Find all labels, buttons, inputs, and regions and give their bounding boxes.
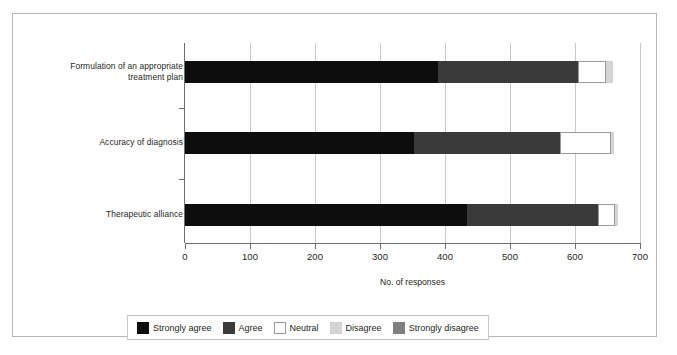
legend-label: Strongly agree xyxy=(153,323,212,333)
legend-label: Agree xyxy=(239,323,263,333)
legend-swatch xyxy=(393,322,405,334)
x-axis-tick-label: 600 xyxy=(555,251,595,262)
legend-swatch xyxy=(330,322,342,334)
legend-item[interactable]: Agree xyxy=(223,322,263,334)
x-axis-line: 0100200300400500600700 xyxy=(185,243,640,244)
x-axis-tick-label: 700 xyxy=(620,251,660,262)
x-axis-tick-label: 200 xyxy=(295,251,335,262)
category-label-line: Formulation of an appropriate xyxy=(33,61,183,73)
bar-segment[interactable] xyxy=(611,132,614,154)
legend-swatch xyxy=(137,322,149,334)
legend-item[interactable]: Disagree xyxy=(330,322,382,334)
plot-area xyxy=(185,43,640,243)
chart-figure-frame: Formulation of an appropriatetreatment p… xyxy=(12,13,657,337)
chart-legend: Strongly agreeAgreeNeutralDisagreeStrong… xyxy=(127,315,489,340)
x-axis-tick xyxy=(640,243,641,249)
x-axis-tick-label: 300 xyxy=(360,251,400,262)
category-label-line: Accuracy of diagnosis xyxy=(33,137,183,149)
bar-segment[interactable] xyxy=(414,132,560,154)
bar-segment[interactable] xyxy=(606,61,613,83)
legend-label: Strongly disagree xyxy=(409,323,479,333)
x-axis-tick xyxy=(380,243,381,249)
x-axis-title: No. of responses xyxy=(185,277,640,287)
bar-segment[interactable] xyxy=(185,61,438,83)
category-label-line: treatment plan xyxy=(33,72,183,84)
legend-item[interactable]: Strongly agree xyxy=(137,322,212,334)
category-label: Accuracy of diagnosis xyxy=(33,137,183,149)
x-axis-tick-label: 500 xyxy=(490,251,530,262)
x-axis-tick xyxy=(185,243,186,249)
bar-segment[interactable] xyxy=(578,61,607,83)
gridline xyxy=(640,43,641,243)
x-axis-tick xyxy=(250,243,251,249)
bar-segment[interactable] xyxy=(615,204,618,226)
category-label: Formulation of an appropriatetreatment p… xyxy=(33,61,183,84)
legend-label: Neutral xyxy=(290,323,319,333)
legend-swatch xyxy=(274,322,286,334)
category-label: Therapeutic alliance xyxy=(33,209,183,221)
bar-segment[interactable] xyxy=(185,132,414,154)
y-axis-tick xyxy=(179,179,185,180)
legend-item[interactable]: Neutral xyxy=(274,322,319,334)
bar-segment[interactable] xyxy=(560,132,611,154)
x-axis-tick xyxy=(315,243,316,249)
category-label-line: Therapeutic alliance xyxy=(33,209,183,221)
x-axis-tick xyxy=(575,243,576,249)
legend-item[interactable]: Strongly disagree xyxy=(393,322,479,334)
legend-label: Disagree xyxy=(346,323,382,333)
x-axis-tick xyxy=(445,243,446,249)
y-axis-tick xyxy=(179,108,185,109)
bar-segment[interactable] xyxy=(467,204,598,226)
legend-swatch xyxy=(223,322,235,334)
bar-segment[interactable] xyxy=(185,204,467,226)
bar-segment[interactable] xyxy=(598,204,615,226)
x-axis-tick xyxy=(510,243,511,249)
bar-segment[interactable] xyxy=(438,61,578,83)
x-axis-tick-label: 0 xyxy=(165,251,205,262)
x-axis-tick-label: 400 xyxy=(425,251,465,262)
category-axis-labels: Formulation of an appropriatetreatment p… xyxy=(31,43,183,243)
x-axis-tick-label: 100 xyxy=(230,251,270,262)
